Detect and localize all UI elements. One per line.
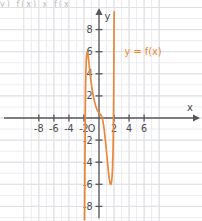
origin-label: O [88,123,96,134]
y-axis-arrow [95,8,102,15]
x-tick-label: -8 [34,123,44,134]
x-tick-label: -4 [64,123,74,134]
function-graph-figure: y) f(x) x f(x -8-6-4-22468642-2-4-6-8Oxy… [0,0,202,221]
x-tick-label: 6 [141,123,147,134]
curve-annotation-label: y = f(x) [125,46,162,57]
x-axis-arrow [193,114,200,121]
major-gridlines [0,0,202,221]
y-tick-label: 2 [86,90,92,101]
x-axis-label: x [187,102,193,113]
cartesian-plot: -8-6-4-22468642-2-4-6-8Oxy y = f(x) [0,0,202,221]
minor-gridlines [0,0,202,221]
y-axis-label: y [105,11,111,22]
axes [4,8,200,218]
series-annotation: y = f(x) [125,46,162,57]
x-tick-label: 4 [126,123,132,134]
x-tick-label: -6 [49,123,59,134]
y-tick-label: 8 [86,24,92,35]
